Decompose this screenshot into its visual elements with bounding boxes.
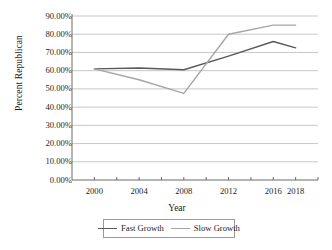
x-axis-tick-label: 2004 [119, 187, 159, 196]
x-axis-tick-label: 2018 [276, 187, 316, 196]
x-axis-tick-label: 2008 [164, 187, 204, 196]
series-line-slow-growth [94, 25, 295, 93]
x-axis-title: Year [0, 203, 332, 213]
chart-container: Percent Republican 0.00%10.00%20.00%30.0… [0, 0, 332, 250]
legend-item-slow-growth: Slow Growth [171, 224, 240, 233]
x-axis-tick-label: 2012 [209, 187, 249, 196]
legend-label-slow-growth: Slow Growth [194, 224, 240, 233]
series-line-fast-growth [94, 42, 295, 70]
chart-legend: Fast Growth Slow Growth [103, 219, 235, 238]
legend-label-fast-growth: Fast Growth [121, 224, 164, 233]
x-axis-tick-label: 2000 [74, 187, 114, 196]
legend-line-swatch-fast-growth [98, 228, 117, 229]
legend-line-swatch-slow-growth [171, 228, 190, 229]
legend-item-fast-growth: Fast Growth [98, 224, 164, 233]
